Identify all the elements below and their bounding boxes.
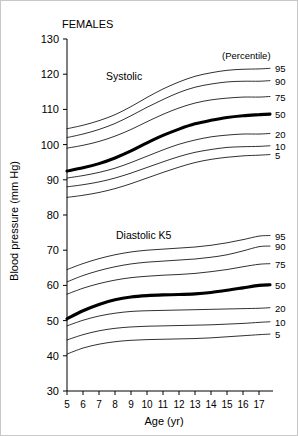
- percentile-label-diastolic-k5-20: 20: [275, 303, 286, 314]
- percentile-label-systolic-20: 20: [275, 129, 286, 140]
- percentile-label-systolic-50: 50: [275, 109, 286, 120]
- percentile-label-systolic-5: 5: [275, 150, 280, 161]
- y-axis-tick-label: 30: [47, 385, 59, 397]
- x-axis-title: Age (yr): [144, 415, 183, 427]
- labels-group: 95907550201059590755020105: [275, 63, 286, 340]
- x-axis-tick-label: 5: [64, 399, 70, 410]
- y-axis-tick-label: 40: [47, 350, 59, 362]
- page-title: FEMALES: [62, 18, 113, 30]
- blood-pressure-chart-figure: 3040506070809010011012013056789101112131…: [0, 0, 298, 436]
- x-axis-tick-label: 12: [173, 399, 185, 410]
- y-axis-tick-label: 110: [41, 103, 59, 115]
- x-axis-tick-label: 16: [237, 399, 249, 410]
- legend-title: (Percentile): [222, 50, 271, 61]
- percentile-curve-diastolic-k5-90: [67, 246, 270, 282]
- x-axis-tick-label: 14: [205, 399, 217, 410]
- percentile-label-diastolic-k5-75: 75: [275, 259, 286, 270]
- percentile-curve-diastolic-k5-5: [67, 334, 270, 354]
- y-axis-title: Blood pressure (mm Hg): [8, 161, 20, 281]
- curves-group: [67, 68, 270, 354]
- percentile-label-systolic-95: 95: [275, 63, 286, 74]
- percentile-label-diastolic-k5-90: 90: [275, 241, 286, 252]
- x-axis-tick-label: 8: [112, 399, 118, 410]
- percentile-curve-systolic-50: [67, 114, 270, 171]
- x-axis-tick-label: 7: [96, 399, 102, 410]
- y-axis-tick-label: 120: [41, 68, 59, 80]
- chart-canvas: 3040506070809010011012013056789101112131…: [1, 1, 298, 436]
- y-axis-tick-label: 70: [47, 244, 59, 256]
- percentile-label-diastolic-k5-50: 50: [275, 280, 286, 291]
- y-axis-tick-label: 90: [47, 174, 59, 186]
- x-axis-tick-label: 9: [128, 399, 134, 410]
- y-axis-tick-label: 130: [41, 33, 59, 45]
- y-axis-tick-label: 60: [47, 279, 59, 291]
- percentile-label-diastolic-k5-5: 5: [275, 329, 280, 340]
- y-axis-tick-label: 80: [47, 209, 59, 221]
- x-axis-tick-label: 11: [158, 399, 169, 410]
- systolic-annotation: Systolic: [106, 70, 142, 82]
- percentile-curve-systolic-90: [67, 81, 270, 138]
- percentile-label-diastolic-k5-10: 10: [275, 317, 286, 328]
- percentile-curve-diastolic-k5-50: [67, 285, 270, 319]
- x-axis-tick-label: 15: [221, 399, 233, 410]
- percentile-curve-diastolic-k5-10: [67, 322, 270, 340]
- percentile-curve-systolic-95: [67, 68, 270, 128]
- y-axis-tick-label: 100: [41, 139, 59, 151]
- percentile-curve-systolic-75: [67, 96, 270, 148]
- percentile-label-systolic-75: 75: [275, 92, 286, 103]
- percentile-curve-systolic-10: [67, 146, 270, 187]
- x-axis-tick-label: 17: [253, 399, 265, 410]
- x-axis-tick-label: 10: [141, 399, 153, 410]
- diastolic-annotation: Diastolic K5: [116, 229, 172, 241]
- y-axis-tick-label: 50: [47, 315, 59, 327]
- x-axis-tick-label: 13: [189, 399, 201, 410]
- percentile-curve-systolic-5: [67, 155, 270, 198]
- percentile-label-diastolic-k5-95: 95: [275, 231, 286, 242]
- axes-group: 3040506070809010011012013056789101112131…: [41, 33, 273, 410]
- percentile-label-systolic-90: 90: [275, 76, 286, 87]
- x-axis-tick-label: 6: [80, 399, 86, 410]
